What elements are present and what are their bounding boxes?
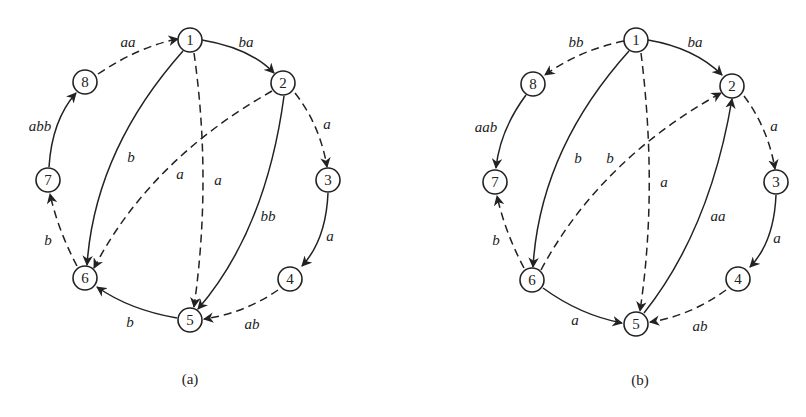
edge-a-8-1: [98, 39, 178, 74]
edge-label: a: [773, 230, 781, 246]
svg-text:2: 2: [279, 75, 287, 91]
node-b-4: 4: [726, 267, 750, 291]
edge-b-6-2: [541, 93, 721, 270]
node-a-1: 1: [178, 28, 202, 52]
edge-label: ab: [693, 318, 709, 334]
edge-label: ab: [245, 316, 261, 332]
node-a-6: 6: [73, 266, 97, 290]
node-a-8: 8: [73, 70, 97, 94]
node-b-5: 5: [624, 312, 648, 336]
edge-label: b: [606, 150, 614, 166]
svg-text:6: 6: [528, 272, 536, 288]
edge-label: a: [660, 174, 668, 190]
svg-text:4: 4: [734, 271, 742, 287]
edge-a-2-3: [295, 93, 327, 167]
edge-label: b: [574, 150, 582, 166]
svg-text:1: 1: [186, 32, 194, 48]
svg-text:5: 5: [632, 316, 640, 332]
edge-label: aab: [475, 119, 498, 135]
edge-label: a: [176, 166, 184, 182]
figure-canvas: aa ba a a ab b b abb b a a bb 1: [0, 0, 806, 417]
edge-label: bb: [569, 34, 585, 50]
edge-b-1-2: [648, 40, 722, 75]
node-b-6: 6: [520, 268, 544, 292]
edge-a-2-5: [198, 96, 284, 309]
edge-label: a: [326, 228, 334, 244]
edge-label: aa: [711, 208, 726, 224]
edge-a-6-7: [50, 194, 77, 266]
edge-b-4-5: [650, 290, 726, 322]
node-a-3: 3: [316, 168, 340, 192]
edge-label: ba: [239, 34, 254, 50]
edge-a-4-5: [204, 290, 278, 319]
edge-label: aa: [121, 34, 136, 50]
edge-label: a: [323, 116, 331, 132]
edge-a-1-5: [194, 53, 203, 307]
node-b-7: 7: [483, 170, 507, 194]
svg-text:1: 1: [632, 32, 640, 48]
edge-label: b: [126, 314, 134, 330]
edge-b-8-7: [496, 95, 526, 168]
svg-text:8: 8: [81, 74, 89, 90]
edge-label: b: [127, 149, 135, 165]
svg-text:2: 2: [728, 78, 736, 94]
edge-label: a: [571, 312, 579, 328]
edge-label: abb: [29, 118, 52, 134]
edge-b-1-5: [640, 53, 649, 311]
node-a-2: 2: [271, 71, 295, 95]
edge-b-5-2: [644, 99, 732, 313]
svg-text:3: 3: [324, 172, 332, 188]
edge-b-3-4: [750, 195, 776, 267]
edge-label: ba: [688, 34, 703, 50]
edge-a-7-8: [49, 93, 76, 167]
edge-b-6-5: [543, 288, 622, 323]
edge-label: b: [44, 232, 52, 248]
graph-a: aa ba a a ab b b abb b a a bb 1: [29, 28, 340, 388]
svg-text:5: 5: [186, 312, 194, 328]
edge-label: a: [770, 118, 778, 134]
svg-text:4: 4: [286, 271, 294, 287]
node-a-5: 5: [178, 308, 202, 332]
node-b-1: 1: [624, 28, 648, 52]
svg-text:7: 7: [491, 174, 499, 190]
caption-a: (a): [182, 371, 199, 388]
node-b-2: 2: [720, 74, 744, 98]
svg-text:3: 3: [772, 174, 780, 190]
graph-b: bb ba a a ab a b aab b a b aa 1: [475, 28, 788, 389]
node-a-7: 7: [36, 168, 60, 192]
edge-label: b: [492, 232, 500, 248]
node-b-8: 8: [521, 72, 545, 96]
node-a-4: 4: [278, 267, 302, 291]
svg-text:6: 6: [81, 270, 89, 286]
edge-a-5-6: [97, 287, 177, 318]
edge-a-3-4: [302, 193, 328, 266]
node-b-3: 3: [764, 170, 788, 194]
edge-label: bb: [261, 208, 277, 224]
edge-a-1-6: [87, 51, 183, 265]
edge-label: a: [214, 172, 222, 188]
svg-text:8: 8: [529, 76, 537, 92]
edge-b-6-7: [497, 196, 524, 268]
caption-b: (b): [631, 372, 649, 389]
svg-text:7: 7: [44, 172, 52, 188]
